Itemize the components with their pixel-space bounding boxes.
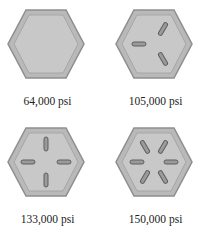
hex-bolt-head-6-marks-icon xyxy=(114,122,194,202)
strength-label: 64,000 psi xyxy=(0,95,95,107)
hex-bolt-head-3-marks-icon xyxy=(114,4,194,84)
hex-bolt-head-4-marks-icon xyxy=(6,122,86,202)
bolt-grade-133000: 133,000 psi xyxy=(0,118,107,236)
bolt-grade-105000: 105,000 psi xyxy=(108,0,215,118)
strength-label: 133,000 psi xyxy=(0,213,95,225)
strength-label: 105,000 psi xyxy=(108,95,203,107)
bolt-grade-64000: 64,000 psi xyxy=(0,0,107,118)
hex-bolt-head-icon xyxy=(6,4,86,84)
bolt-grade-150000: 150,000 psi xyxy=(108,118,215,236)
strength-label: 150,000 psi xyxy=(108,213,203,225)
